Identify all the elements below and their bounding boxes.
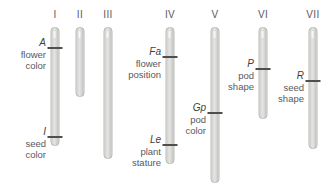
gene-annotation-a: Aflowercolor: [21, 37, 46, 72]
gene-trait-line: stature: [132, 157, 161, 169]
chromosome-label-ii: II: [77, 10, 83, 20]
gene-symbol-gp: Gp: [185, 102, 206, 114]
chromosome-label-vi: VI: [258, 10, 268, 20]
chromosome-label-vii: VII: [306, 10, 319, 20]
gene-symbol-i: I: [25, 126, 46, 138]
gene-annotation-gp: Gppodcolor: [185, 102, 206, 137]
gene-annotation-le: Leplantstature: [132, 134, 161, 169]
gene-trait-line: color: [185, 125, 206, 137]
chromosome-bar-v: [211, 27, 220, 183]
gene-trait-line: seed: [278, 82, 304, 94]
locus-tick-le: [163, 144, 178, 146]
gene-trait-line: shape: [228, 81, 254, 93]
chromosome-bar-i: [51, 27, 60, 146]
gene-annotation-i: Iseedcolor: [25, 126, 46, 161]
gene-annotation-p: Ppodshape: [228, 58, 254, 93]
gene-trait-line: color: [21, 60, 46, 72]
gene-trait-line: plant: [132, 146, 161, 158]
chromosome-bar-iii: [104, 27, 113, 159]
gene-trait-line: pod: [228, 70, 254, 82]
gene-trait-line: pod: [185, 114, 206, 126]
gene-trait-line: flower: [128, 58, 161, 70]
gene-symbol-a: A: [21, 37, 46, 49]
locus-tick-a: [48, 47, 63, 49]
gene-trait-line: shape: [278, 93, 304, 105]
gene-trait-line: flower: [21, 49, 46, 61]
gene-annotation-r: Rseedshape: [278, 70, 304, 105]
locus-tick-i: [48, 136, 63, 138]
gene-annotation-fa: Faflowerposition: [128, 46, 161, 81]
gene-trait-line: seed: [25, 138, 46, 150]
chromosome-bar-vi: [259, 27, 268, 119]
chromosome-label-i: I: [53, 10, 56, 20]
chromosome-bar-ii: [76, 27, 85, 97]
gene-symbol-le: Le: [132, 134, 161, 146]
chromosome-label-iii: III: [103, 10, 113, 20]
locus-tick-r: [306, 80, 321, 82]
chromosome-map-figure: IAflowercolorIseedcolorIIIIIIVFaflowerpo…: [0, 0, 332, 185]
locus-tick-gp: [208, 112, 223, 114]
locus-tick-p: [256, 68, 271, 70]
chromosome-bar-vii: [309, 27, 318, 149]
gene-symbol-r: R: [278, 70, 304, 82]
gene-trait-line: position: [128, 69, 161, 81]
chromosome-label-v: V: [211, 10, 218, 20]
gene-trait-line: color: [25, 149, 46, 161]
gene-symbol-p: P: [228, 58, 254, 70]
chromosome-label-iv: IV: [165, 10, 175, 20]
gene-symbol-fa: Fa: [128, 46, 161, 58]
locus-tick-fa: [163, 56, 178, 58]
